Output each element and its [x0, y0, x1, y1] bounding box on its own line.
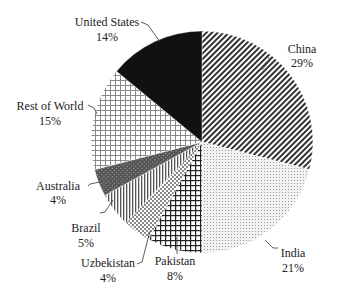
label-brazil-pct: 5%	[78, 236, 94, 250]
pie-slices	[91, 31, 313, 253]
label-brazil: Brazil 5%	[71, 221, 101, 250]
label-australia: Australia 4%	[36, 179, 81, 207]
pie-chart: China 29% India 21% Pakistan 8% Uzbekist…	[0, 0, 350, 305]
label-rest-of-world: Rest of World 15%	[17, 99, 84, 128]
label-china-name: China	[288, 42, 317, 56]
label-china: China 29%	[288, 42, 317, 70]
label-india-name: India	[281, 246, 306, 260]
label-china-pct: 29%	[291, 56, 313, 70]
label-india-pct: 21%	[282, 261, 304, 275]
label-us-name: United States	[75, 15, 140, 29]
label-pakistan-name: Pakistan	[155, 254, 196, 268]
label-brazil-name: Brazil	[71, 221, 101, 235]
label-uzbekistan: Uzbekistan 4%	[81, 256, 135, 285]
label-india: India 21%	[281, 246, 306, 275]
label-australia-name: Australia	[36, 179, 81, 193]
label-uzbekistan-name: Uzbekistan	[81, 256, 135, 270]
label-us-pct: 14%	[96, 30, 118, 44]
label-rest-pct: 15%	[39, 114, 61, 128]
label-pakistan: Pakistan 8%	[155, 254, 196, 283]
label-united-states: United States 14%	[75, 15, 140, 44]
label-rest-name: Rest of World	[17, 99, 84, 113]
label-pakistan-pct: 8%	[167, 269, 183, 283]
label-uzbekistan-pct: 4%	[100, 271, 116, 285]
label-australia-pct: 4%	[50, 193, 66, 207]
